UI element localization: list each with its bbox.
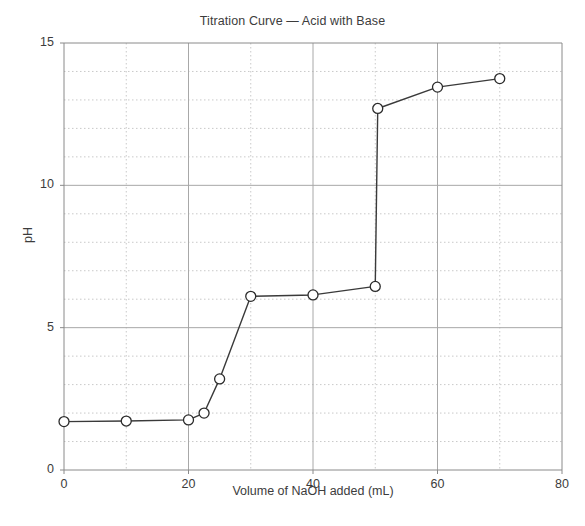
y-tick-label: 0: [14, 462, 54, 476]
axis-ticks: [60, 43, 562, 474]
y-tick-label: 10: [14, 177, 54, 191]
major-gridlines: [64, 43, 562, 470]
x-tick-label: 80: [542, 477, 582, 491]
plot-canvas: [0, 0, 585, 526]
y-axis-label: pH: [21, 205, 35, 265]
y-tick-label: 5: [14, 320, 54, 334]
y-tick-label: 15: [14, 35, 54, 49]
x-tick-label: 40: [293, 477, 333, 491]
data-line: [64, 79, 500, 422]
x-tick-label: 0: [44, 477, 84, 491]
chart-figure: Titration Curve — Acid with Base pH Volu…: [0, 0, 585, 526]
x-tick-label: 20: [169, 477, 209, 491]
x-tick-label: 60: [418, 477, 458, 491]
